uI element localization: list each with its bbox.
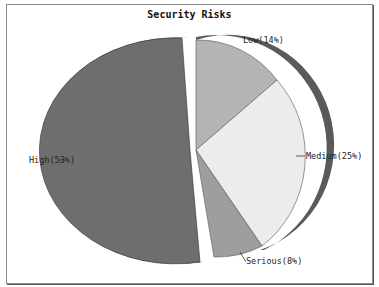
slice-high[interactable]: [39, 38, 200, 264]
label-low: Low(14%): [243, 35, 284, 45]
label-high: High(53%): [29, 155, 75, 165]
label-medium: Medium(25%): [306, 151, 362, 161]
pie-chart: Low(14%) Medium(25%) Serious(8%) High(53…: [0, 0, 379, 287]
label-serious: Serious(8%): [246, 256, 302, 266]
